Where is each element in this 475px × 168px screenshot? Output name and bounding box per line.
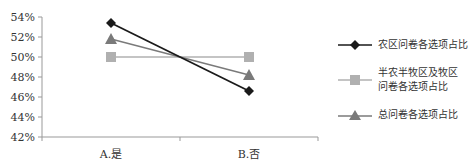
series-lines bbox=[105, 18, 255, 96]
y-tick-label: 42% bbox=[11, 131, 35, 144]
x-axis: A.是B.否 bbox=[42, 137, 318, 161]
y-tick-label: 44% bbox=[11, 111, 35, 124]
triangle-marker-icon bbox=[338, 109, 372, 121]
x-tick-label: B.否 bbox=[238, 148, 261, 161]
y-tick-label: 46% bbox=[11, 91, 35, 104]
diamond-marker-icon bbox=[338, 39, 372, 51]
legend: 农区问卷各选项占比 半农半牧区及牧区 问卷各选项占比 总问卷各选项占比 bbox=[338, 0, 475, 168]
y-tick-label: 54% bbox=[11, 11, 35, 24]
triangle-marker-icon bbox=[105, 33, 117, 44]
y-tick-label: 48% bbox=[11, 71, 35, 84]
y-tick-label: 52% bbox=[11, 31, 35, 44]
legend-label: 农区问卷各选项占比 bbox=[378, 38, 468, 52]
legend-item-total: 总问卷各选项占比 bbox=[338, 108, 458, 122]
legend-label-line1: 半农半牧区及牧区 bbox=[378, 66, 458, 80]
legend-item-farming: 农区问卷各选项占比 bbox=[338, 38, 468, 52]
y-tick-label: 50% bbox=[11, 51, 35, 64]
legend-label: 总问卷各选项占比 bbox=[378, 108, 458, 122]
legend-item-semi-pastoral: 半农半牧区及牧区 问卷各选项占比 bbox=[338, 66, 458, 94]
y-axis: 42%44%46%48%50%52%54% bbox=[11, 11, 42, 144]
square-marker-icon bbox=[244, 52, 254, 62]
square-marker-icon bbox=[338, 74, 372, 86]
diamond-marker-icon bbox=[106, 18, 116, 28]
x-tick-label: A.是 bbox=[99, 148, 122, 161]
diamond-marker-icon bbox=[244, 86, 254, 96]
square-marker-icon bbox=[106, 52, 116, 62]
legend-label-line2: 问卷各选项占比 bbox=[378, 80, 458, 94]
